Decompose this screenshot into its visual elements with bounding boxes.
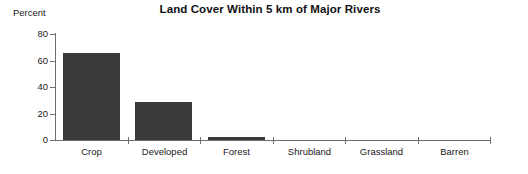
plot-area [55,34,490,140]
x-label-shrubland: Shrubland [273,146,346,157]
y-tick-label: 60 [18,55,48,66]
y-tick-mark [50,140,56,141]
y-tick-label: 20 [18,108,48,119]
bar-crop [63,53,120,140]
y-tick-label: 40 [18,81,48,92]
x-label-barren: Barren [418,146,491,157]
bar-chart: Land Cover Within 5 km of Major Rivers P… [0,0,528,174]
x-tick-mark [490,137,491,144]
y-axis-title: Percent [13,7,46,18]
bar-developed [135,102,192,140]
x-label-crop: Crop [55,146,128,157]
x-label-forest: Forest [200,146,273,157]
x-label-grassland: Grassland [345,146,418,157]
y-tick-label: 0 [18,134,48,145]
chart-title: Land Cover Within 5 km of Major Rivers [120,3,420,15]
x-label-developed: Developed [128,146,201,157]
y-tick-label: 80 [18,28,48,39]
bar-forest [208,137,265,140]
